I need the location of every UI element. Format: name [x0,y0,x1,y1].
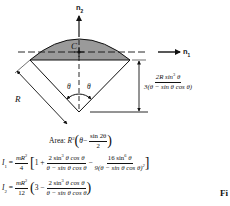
segment-area [30,39,130,60]
radius-left [30,60,79,112]
figure-caption-fragment: Fi [220,189,228,198]
centroid-distance-formula: 2R sin3 θ 3(θ − sin θ cos θ) [144,74,192,91]
i1-formula: I1 = mR24 [1 + 2 sin3 θ cos θθ − sin θ c… [2,155,149,172]
area-formula: Area: R2(θ− sin 2θ2) [49,133,112,150]
angle-left-label: θ [67,83,71,91]
n1-label: n1 [183,48,190,56]
radius-label: R [15,95,21,104]
i2-formula: I2 = mR212 (3 − 2 sin3 θ cos θθ − sin θ … [2,180,91,197]
centroid-label: C [71,42,77,51]
circular-segment-diagram [0,0,230,206]
angle-right-label: θ [87,83,91,91]
n2-label: n2 [76,4,83,12]
radius-dimension-line [17,71,67,124]
